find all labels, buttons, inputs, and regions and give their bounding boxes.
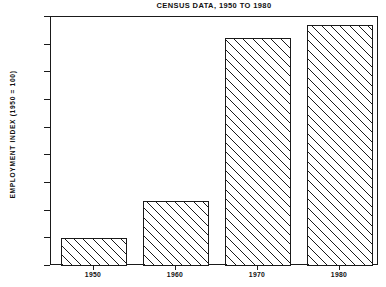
y-tick-mark: [44, 237, 50, 238]
chart-figure: CENSUS DATA, 1950 TO 1980 EMPLOYMENT IND…: [0, 0, 386, 287]
y-tick-mark: [44, 99, 50, 100]
bar-1960: [143, 201, 209, 266]
bar-1980: [307, 25, 373, 266]
x-tick-label: 1960: [145, 271, 205, 278]
x-tick-label: 1970: [227, 271, 287, 278]
x-tick-mark: [257, 265, 258, 270]
chart-title: CENSUS DATA, 1950 TO 1980: [50, 1, 378, 10]
y-axis-title: EMPLOYMENT INDEX (1950 = 100): [9, 20, 16, 250]
plot-area: [50, 16, 378, 265]
bar-1950: [61, 238, 127, 266]
y-tick-mark: [44, 154, 50, 155]
y-tick-mark: [44, 16, 50, 17]
x-tick-label: 1950: [63, 271, 123, 278]
x-tick-label: 1980: [309, 271, 369, 278]
x-tick-mark: [175, 265, 176, 270]
bar-1970: [225, 38, 291, 266]
x-tick-mark: [93, 265, 94, 270]
y-tick-mark: [44, 127, 50, 128]
y-tick-mark: [44, 265, 50, 266]
y-tick-mark: [44, 44, 50, 45]
y-tick-mark: [44, 182, 50, 183]
y-tick-mark: [44, 71, 50, 72]
y-tick-mark: [44, 210, 50, 211]
x-tick-mark: [339, 265, 340, 270]
